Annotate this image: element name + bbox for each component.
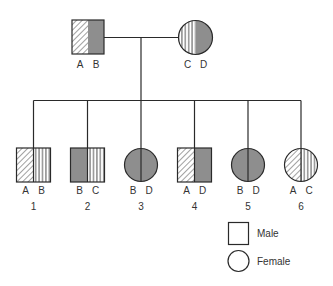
father-symbol: A B [72, 20, 104, 70]
legend-male-label: Male [257, 228, 279, 239]
mother-symbol: C D [178, 20, 213, 70]
child-4-number: 4 [192, 201, 198, 212]
child-5-allele-1: B [237, 185, 244, 196]
father-allele-2: B [93, 59, 100, 70]
child-2-number: 2 [85, 201, 91, 212]
child-1-number: 1 [31, 201, 37, 212]
child-4-allele-1: A [183, 185, 190, 196]
child-6-number: 6 [298, 201, 304, 212]
child-1-symbol: AB1 [17, 148, 51, 212]
child-3-allele-2: D [145, 185, 152, 196]
child-6-allele-2: C [305, 185, 312, 196]
female-circle-icon [228, 251, 249, 272]
child-5-allele-2: D [252, 185, 259, 196]
child-2-allele-1: B [76, 185, 83, 196]
child-3-allele-1: B [130, 185, 137, 196]
child-1-allele-1: A [22, 185, 29, 196]
pedigree-diagram: A B C D AB1BC2BD3AD4BD5AC6 Male Female [0, 0, 333, 286]
child-1-allele-2: B [38, 185, 45, 196]
child-4-allele-2: D [199, 185, 206, 196]
mother-allele-1: C [184, 59, 191, 70]
male-square-icon [229, 223, 249, 245]
legend: Male Female [228, 223, 291, 272]
child-5-number: 5 [245, 201, 251, 212]
child-5-symbol: BD5 [232, 149, 265, 213]
legend-item-female: Female [228, 251, 291, 272]
child-2-allele-2: C [92, 185, 99, 196]
child-3-number: 3 [138, 201, 144, 212]
legend-item-male: Male [229, 223, 280, 245]
father-allele-1: A [77, 59, 84, 70]
legend-female-label: Female [257, 256, 291, 267]
offspring-row: AB1BC2BD3AD4BD5AC6 [17, 148, 318, 212]
mother-allele-2: D [200, 59, 207, 70]
child-2-symbol: BC2 [71, 148, 105, 212]
child-6-allele-1: A [290, 185, 297, 196]
child-6-symbol: AC6 [285, 149, 318, 213]
child-3-symbol: BD3 [125, 149, 158, 213]
child-4-symbol: AD4 [178, 148, 212, 212]
